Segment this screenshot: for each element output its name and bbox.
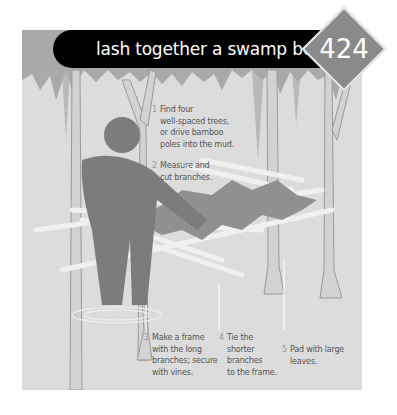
step-2: 2 Measure and cut branches.	[160, 160, 212, 183]
step-4: 4 Tie the shorter branches to the frame.	[227, 332, 277, 378]
water-ripple	[72, 307, 162, 323]
guide-lines	[146, 260, 284, 330]
badge-number: 424	[302, 30, 386, 68]
step-5: 5 Pad with large leaves.	[290, 344, 344, 367]
page-title: lash together a swamp bed	[96, 34, 324, 64]
step-3: 3 Make a frame with the long branches; s…	[152, 332, 218, 378]
step-1: 1 Find four well-spaced trees, or drive …	[160, 104, 234, 150]
